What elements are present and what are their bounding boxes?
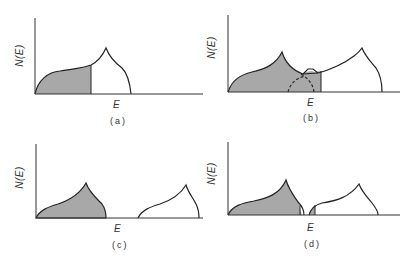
panel-d-caption: (d) (304, 239, 321, 249)
panel-c-x-label: E (114, 223, 121, 234)
panel-a-plot (35, 18, 203, 94)
panel-d-plot (228, 142, 400, 215)
panel-c-empty-band (138, 185, 199, 218)
panel-a-y-label: N(E) (14, 44, 25, 67)
panel-a-caption: (a) (110, 116, 127, 126)
panel-c-plot (36, 144, 203, 218)
panel-d-x-label: E (307, 222, 314, 233)
panel-b-caption: (b) (303, 113, 320, 123)
panel-c-y-label: N(E) (14, 166, 25, 189)
panel-b-filled-region (228, 52, 321, 92)
panel-a-x-label: E (113, 99, 120, 110)
panel-d-upper-band-curve (309, 184, 378, 215)
panel-c-filled-band (36, 183, 106, 218)
panel-b-plot (228, 15, 400, 92)
panel-c-caption: (c) (112, 240, 129, 250)
panel-a-filled-region (35, 65, 91, 94)
panel-b-y-label: N(E) (206, 36, 217, 59)
panel-b-x-label: E (307, 97, 314, 108)
panel-d-y-label: N(E) (206, 162, 217, 185)
